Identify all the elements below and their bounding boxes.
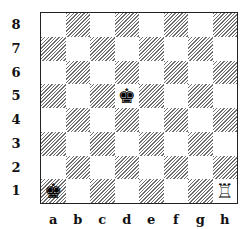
square-a3 [41,132,66,156]
rank-label: 6 [10,65,22,80]
rank-label: 1 [10,183,22,198]
file-label: b [66,212,91,227]
square-g3 [188,132,213,156]
square-e3 [139,132,164,156]
file-label: h [213,212,238,227]
rank-label: 8 [10,17,22,32]
square-h4 [213,108,238,132]
rank-label: 2 [10,160,22,175]
square-g5 [188,84,213,108]
square-d7 [115,37,140,61]
square-e1 [139,179,164,203]
square-b1 [66,179,91,203]
square-e7 [139,37,164,61]
rank-label: 3 [10,136,22,151]
square-a2 [41,156,66,180]
square-h7 [213,37,238,61]
square-g4 [188,108,213,132]
square-d6 [115,61,140,85]
square-d3 [115,132,140,156]
square-h2 [213,156,238,180]
square-b8 [66,13,91,37]
square-h6 [213,61,238,85]
square-f3 [164,132,189,156]
square-d4 [115,108,140,132]
file-label: c [90,212,115,227]
square-a5 [41,84,66,108]
square-d2 [115,156,140,180]
file-label: a [41,212,66,227]
file-label: g [188,212,213,227]
rank-label: 7 [10,41,22,56]
square-c7 [90,37,115,61]
square-f2 [164,156,189,180]
square-f6 [164,61,189,85]
square-e6 [139,61,164,85]
square-g7 [188,37,213,61]
square-f8 [164,13,189,37]
square-h3 [213,132,238,156]
square-e8 [139,13,164,37]
square-g1 [188,179,213,203]
square-c1 [90,179,115,203]
square-f1 [164,179,189,203]
square-b7 [66,37,91,61]
file-label: d [115,212,140,227]
square-b5 [66,84,91,108]
square-c5 [90,84,115,108]
square-c8 [90,13,115,37]
square-a7 [41,37,66,61]
square-f7 [164,37,189,61]
square-a4 [41,108,66,132]
black-king-icon: ♚ [41,179,66,203]
square-d1 [115,179,140,203]
square-c6 [90,61,115,85]
rank-label: 5 [10,88,22,103]
square-h8 [213,13,238,37]
square-g8 [188,13,213,37]
square-b4 [66,108,91,132]
file-label: e [139,212,164,227]
chess-board: ♚♚♖ [40,12,238,204]
square-g2 [188,156,213,180]
square-c4 [90,108,115,132]
square-f5 [164,84,189,108]
square-e5 [139,84,164,108]
rank-label: 4 [10,112,22,127]
square-h5 [213,84,238,108]
square-b3 [66,132,91,156]
square-a6 [41,61,66,85]
square-c3 [90,132,115,156]
square-b2 [66,156,91,180]
square-e2 [139,156,164,180]
square-e4 [139,108,164,132]
square-d8 [115,13,140,37]
square-b6 [66,61,91,85]
file-label: f [164,212,189,227]
square-c2 [90,156,115,180]
black-king-icon: ♚ [115,84,140,108]
white-rook-icon: ♖ [213,179,238,203]
square-a8 [41,13,66,37]
square-f4 [164,108,189,132]
square-g6 [188,61,213,85]
